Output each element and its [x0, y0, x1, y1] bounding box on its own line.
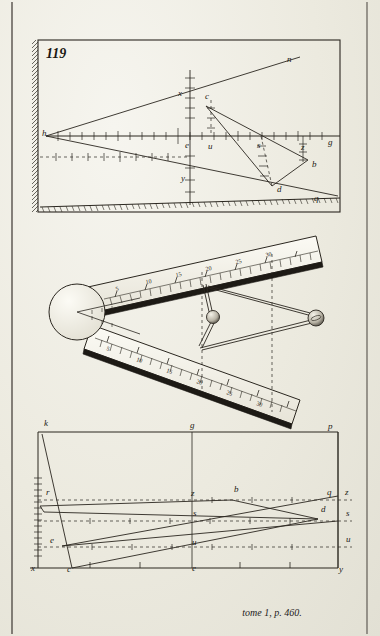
dashed-line-ticks [90, 497, 292, 550]
label-b: b [312, 159, 317, 169]
label-y: y [180, 173, 185, 183]
s-graduations [257, 146, 269, 176]
label-u: u [208, 141, 213, 151]
upper-scale-label: 20 [205, 265, 212, 272]
ball-joint-right [308, 310, 324, 326]
label-e-bottom: e [192, 563, 196, 573]
label-h: h [42, 128, 47, 138]
label-s: s [257, 140, 261, 150]
wall-hatching-left [32, 40, 38, 212]
plate-drawing: 5 10 15 20 25 30 5 10 [0, 0, 380, 636]
upper-scale-label: 10 [145, 278, 152, 285]
line-b-d [232, 500, 318, 519]
label-n: n [287, 54, 292, 64]
line-d-back [44, 512, 318, 519]
engraving-plate: 5 10 15 20 25 30 5 10 [0, 0, 380, 636]
upper-scale-label: 15 [175, 271, 182, 278]
label-r: r [46, 487, 50, 497]
bottom-panel-labels: k g p r z b q z s d s e u u x c e y [30, 418, 351, 574]
plate-caption: tome 1, p. 460. [242, 607, 301, 618]
lower-ruler-arm: 5 10 15 20 25 30 [83, 325, 300, 429]
line-d-b [272, 160, 308, 186]
label-x: x [30, 563, 35, 573]
line-k-c [42, 434, 72, 568]
label-e: e [185, 140, 189, 150]
dashed-vertical-s [261, 136, 272, 186]
label-c: c [205, 91, 209, 101]
upper-scale-label: 30 [265, 251, 272, 258]
ball-joint-left [207, 311, 220, 324]
line-close [40, 506, 44, 512]
upper-ruler-arm: 5 10 15 20 25 30 [88, 236, 323, 317]
baseline-bottom-ticks [90, 562, 290, 568]
label-s-right: s [346, 508, 350, 518]
label-k: k [44, 418, 49, 428]
label-g: g [328, 137, 333, 147]
upper-scale-label: 25 [235, 258, 242, 265]
label-q: q [314, 193, 319, 203]
label-q: q [327, 487, 332, 497]
figure-number: 119 [46, 46, 66, 61]
label-s-mid: s [193, 508, 197, 518]
label-u-mid: u [192, 537, 197, 547]
label-z-left: z [190, 488, 195, 498]
label-z: z [300, 142, 305, 152]
line-c-b [206, 106, 308, 160]
label-b: b [234, 484, 239, 494]
label-x: x [177, 88, 182, 98]
label-d: d [277, 184, 282, 194]
panel-top [32, 40, 340, 212]
panel-bottom [30, 432, 352, 568]
top-panel-frame [38, 40, 340, 212]
label-d: d [321, 504, 326, 514]
label-y: y [338, 564, 343, 574]
label-z-right: z [344, 487, 349, 497]
top-panel-labels: h x c n e u s z g b d y q [42, 54, 333, 203]
label-c: c [67, 564, 71, 574]
sightline-h-n [46, 57, 300, 136]
label-e-left: e [50, 535, 54, 545]
line-zr-b [40, 500, 232, 506]
panel-middle: 5 10 15 20 25 30 5 10 [49, 236, 324, 429]
label-u-right: u [346, 534, 351, 544]
sightline-h-q [46, 136, 338, 196]
label-g: g [190, 420, 195, 430]
label-p: p [327, 421, 333, 431]
